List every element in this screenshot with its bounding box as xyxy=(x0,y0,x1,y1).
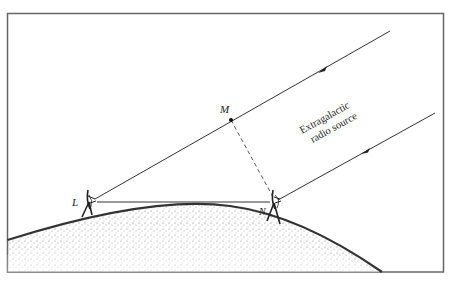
label-n: N xyxy=(258,206,267,217)
earth-surface xyxy=(8,204,383,272)
point-m-marker xyxy=(229,118,233,122)
arrow-lower-icon xyxy=(361,148,370,154)
label-m: M xyxy=(219,103,230,115)
arrow-upper-icon xyxy=(318,66,327,73)
label-l: L xyxy=(71,196,78,208)
source-label: Extragalactic radio source xyxy=(298,99,359,148)
telescope-l xyxy=(82,190,96,217)
delay-path-mn xyxy=(231,120,273,197)
vlbi-diagram: M L N Extragalactic radio source xyxy=(0,0,452,281)
